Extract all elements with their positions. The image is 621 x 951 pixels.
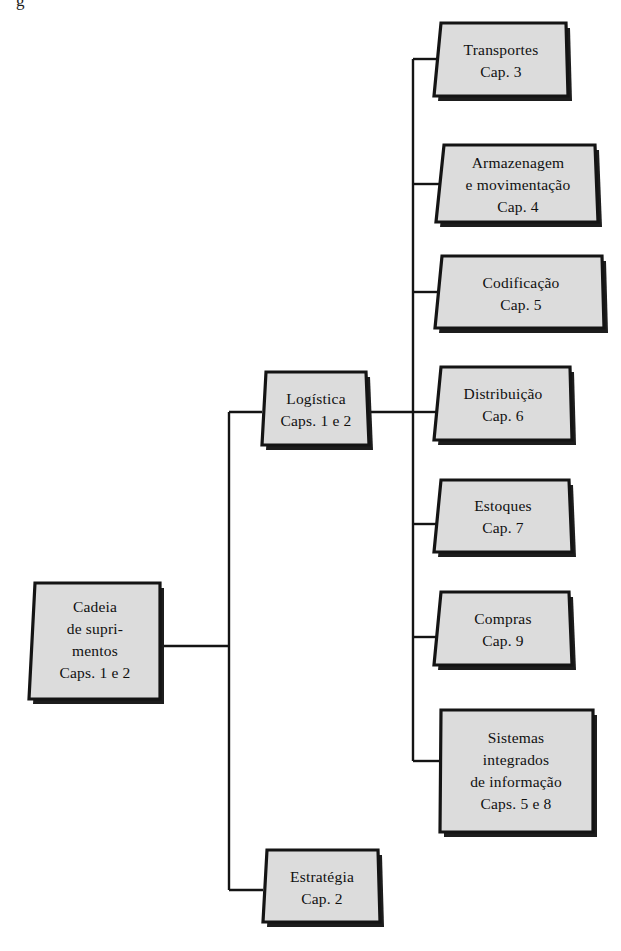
node-distribuicao-shape — [434, 367, 572, 440]
node-transportes-line-1: Transportes — [464, 41, 539, 58]
node-codificacao-shape — [435, 256, 604, 328]
node-armazenagem-e-movimentacao[interactable]: Armazenagem e movimentação Cap. 4 — [436, 145, 602, 227]
node-sistemas-line-1: Sistemas — [488, 729, 545, 746]
node-estrategia[interactable]: Estratégia Cap. 2 — [263, 850, 384, 927]
node-cadeia-line-1: Cadeia — [73, 598, 117, 615]
node-armazenagem-line-3: Cap. 4 — [497, 198, 539, 215]
node-codificacao-line-1: Codificação — [482, 274, 559, 291]
node-logistica-line-2: Caps. 1 e 2 — [280, 412, 351, 429]
node-estoques-shape — [434, 480, 572, 552]
node-estrategia-shape — [263, 850, 380, 922]
node-sistemas-line-4: Caps. 5 e 8 — [480, 795, 551, 812]
node-transportes[interactable]: Transportes Cap. 3 — [434, 23, 572, 101]
supply-chain-diagram: g — [0, 0, 621, 951]
caption-fragment-text: g — [16, 0, 25, 11]
node-estrategia-line-1: Estratégia — [290, 868, 354, 885]
node-logistica[interactable]: Logística Caps. 1 e 2 — [262, 372, 373, 450]
node-transportes-line-2: Cap. 3 — [480, 63, 522, 80]
node-cadeia-line-3: mentos — [72, 642, 118, 659]
node-sistemas-line-3: de informação — [470, 773, 562, 790]
node-estrategia-line-2: Cap. 2 — [301, 890, 343, 907]
node-logistica-line-1: Logística — [286, 390, 345, 407]
node-cadeia-de-suprimentos[interactable]: Cadeia de supri- mentos Caps. 1 e 2 — [29, 583, 164, 704]
node-compras-line-2: Cap. 9 — [482, 632, 524, 649]
connector-group — [160, 59, 442, 890]
node-cadeia-line-4: Caps. 1 e 2 — [59, 664, 130, 681]
node-sistemas-line-2: integrados — [483, 751, 550, 768]
node-distribuicao[interactable]: Distribuição Cap. 6 — [434, 367, 576, 445]
node-armazenagem-line-1: Armazenagem — [472, 154, 565, 171]
node-codificacao[interactable]: Codificação Cap. 5 — [435, 256, 608, 333]
node-sistemas-integrados-de-informacao[interactable]: Sistemas integrados de informação Caps. … — [440, 710, 597, 837]
node-logistica-shape — [262, 372, 369, 445]
node-armazenagem-line-2: e movimentação — [466, 176, 571, 193]
node-distribuicao-line-1: Distribuição — [463, 385, 542, 402]
node-compras[interactable]: Compras Cap. 9 — [434, 592, 576, 670]
node-estoques-line-2: Cap. 7 — [482, 519, 524, 536]
node-estoques[interactable]: Estoques Cap. 7 — [434, 480, 576, 557]
node-distribuicao-line-2: Cap. 6 — [482, 407, 524, 424]
node-codificacao-line-2: Cap. 5 — [500, 296, 542, 313]
node-compras-line-1: Compras — [474, 610, 531, 627]
org-chart-svg: Transportes Cap. 3 Armazenagem e movimen… — [0, 0, 621, 951]
node-cadeia-line-2: de supri- — [67, 620, 123, 637]
node-transportes-shape — [434, 23, 568, 96]
node-estoques-line-1: Estoques — [474, 497, 532, 514]
node-compras-shape — [434, 592, 572, 665]
